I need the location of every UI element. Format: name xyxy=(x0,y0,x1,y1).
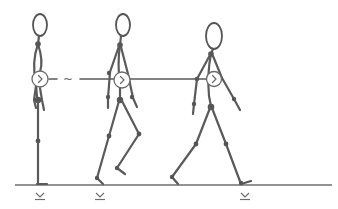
pelvis-marker xyxy=(32,71,48,87)
head-icon xyxy=(33,14,47,36)
tilde-symbol: ~ xyxy=(63,72,73,86)
ground-marker-1 xyxy=(35,193,45,200)
figure-full-stride xyxy=(170,23,251,185)
ground-marker-3 xyxy=(240,193,250,200)
figure-mid-stride xyxy=(95,14,142,184)
pelvis-marker xyxy=(114,72,130,88)
gait-diagram-canvas: ~ xyxy=(0,0,338,209)
head-icon xyxy=(206,23,222,49)
pelvis-marker xyxy=(207,72,222,87)
ground-marker-2 xyxy=(95,193,105,200)
gait-diagram: Walking gait sequence ~ xyxy=(0,0,338,209)
head-icon xyxy=(116,14,130,36)
figure-standing xyxy=(32,14,48,184)
